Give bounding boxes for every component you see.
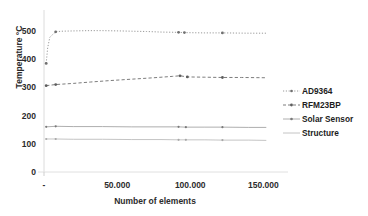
data-point — [221, 76, 224, 79]
data-point — [177, 31, 180, 34]
legend-label-ad9364: AD9364 — [302, 86, 332, 96]
legend-item-ad9364[interactable]: AD9364 — [283, 84, 368, 98]
legend-item-rfm23bp[interactable]: RFM23BP — [283, 98, 368, 112]
data-point — [221, 139, 223, 141]
data-point — [45, 84, 48, 87]
data-point — [221, 126, 223, 128]
data-point — [54, 83, 57, 86]
data-point — [45, 138, 47, 140]
legend-label-solar-sensor: Solar Sensor — [302, 114, 353, 124]
legend-marker-solar-sensor — [283, 114, 300, 124]
series-line-solar-sensor — [46, 126, 266, 127]
data-point — [177, 126, 179, 128]
data-point — [55, 125, 57, 127]
data-point — [179, 74, 182, 77]
legend-item-solar-sensor[interactable]: Solar Sensor — [283, 112, 368, 126]
data-point — [45, 126, 47, 128]
data-point — [45, 62, 48, 65]
legend-marker-rfm23bp — [283, 100, 300, 110]
chart-container: Temperature °C Number of elements 010020… — [0, 0, 368, 216]
data-point — [185, 139, 187, 141]
series-line-ad9364 — [46, 31, 266, 64]
data-point — [177, 139, 179, 141]
data-point — [221, 32, 224, 35]
data-point — [183, 31, 186, 34]
legend-item-structure[interactable]: Structure — [283, 126, 368, 140]
data-point — [186, 76, 189, 79]
legend-label-rfm23bp: RFM23BP — [302, 100, 341, 110]
legend-marker-ad9364 — [283, 86, 300, 96]
series-line-structure — [46, 139, 266, 140]
data-point — [54, 30, 57, 33]
legend-marker-structure — [283, 128, 300, 138]
chart-legend: AD9364 RFM23BP Solar Sensor Structure — [283, 84, 368, 140]
data-point — [185, 126, 187, 128]
series-line-rfm23bp — [46, 76, 266, 86]
legend-label-structure: Structure — [302, 128, 339, 138]
data-point — [55, 138, 57, 140]
